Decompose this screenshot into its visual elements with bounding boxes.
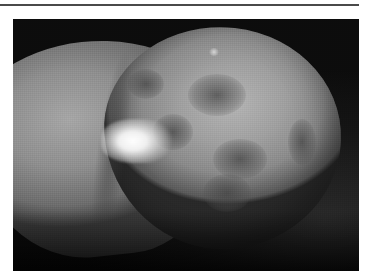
photo-grain	[13, 19, 359, 271]
top-horizontal-rule	[0, 4, 359, 6]
clinical-photo-figure	[13, 19, 359, 271]
document-page	[0, 0, 371, 276]
